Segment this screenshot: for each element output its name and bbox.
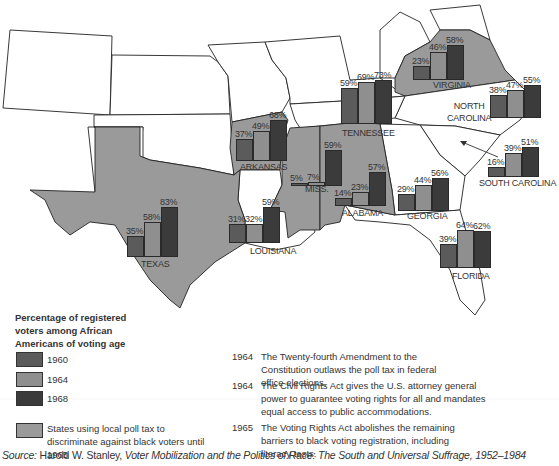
source-citation: Source: Harold W. Stanley, Voter Mobiliz… <box>2 449 526 461</box>
bar-1968: 57% <box>369 172 386 206</box>
state-label-mississippi: MISS. <box>305 184 329 194</box>
bar-1968: 62% <box>474 231 491 268</box>
bar-1968: 83% <box>161 207 178 257</box>
legend-item-1968: 1968 <box>16 391 68 406</box>
bar-1960: 16% <box>488 167 505 177</box>
bar-1968: 73% <box>375 80 392 124</box>
legend-swatch-1968 <box>16 391 43 406</box>
bars-florida: 39% 64% 62% <box>440 230 491 268</box>
bar-1964: 49% <box>253 131 270 161</box>
bar-1964: 46% <box>430 52 447 80</box>
bar-1964: 47% <box>507 90 524 118</box>
bars-louisiana: 31% 32% 59% <box>229 207 280 243</box>
state-label-north-carolina: NORTHCAROLINA <box>447 100 491 124</box>
state-label-south-carolina: SOUTH CAROLINA <box>479 178 556 188</box>
bar-1960: 39% <box>440 244 457 268</box>
bar-1960: 38% <box>490 95 507 118</box>
legend-swatch-1964 <box>16 372 43 387</box>
bar-1960: 14% <box>335 198 352 206</box>
state-colorado <box>3 30 112 115</box>
bar-1964: 64% <box>457 230 474 268</box>
legend-title: Percentage of registered voters among Af… <box>15 311 135 350</box>
legend-item-1964: 1964 <box>16 372 68 387</box>
bars-texas: 35% 58% 83% <box>127 207 178 257</box>
bars-virginia: 23% 46% 58% <box>413 27 464 80</box>
bars-arkansas: 37% 49% 68% <box>236 120 287 161</box>
bar-1964: 58% <box>144 222 161 257</box>
bar-1960: 23% <box>413 66 430 80</box>
bar-1964: 69% <box>358 82 375 124</box>
bars-alabama: 14% 23% 57% <box>335 172 386 206</box>
bar-1964: 39% <box>505 153 522 177</box>
state-label-florida: FLORIDA <box>452 271 490 281</box>
bar-1968: 51% <box>522 147 539 177</box>
timeline-entry: 1964 The Civil Rights Act gives the U.S.… <box>232 379 542 418</box>
state-label-tennessee: TENNESSEE <box>342 128 395 138</box>
state-label-arkansas: ARKANSAS <box>240 162 287 172</box>
bars-georgia: 29% 44% 56% <box>398 177 449 211</box>
bar-1960: 37% <box>236 139 253 161</box>
bar-1960: 59% <box>341 88 358 124</box>
state-label-georgia: GEORGIA <box>407 211 448 221</box>
legend-swatch-poll-tax <box>16 423 43 438</box>
state-label-alabama: ALABAMA <box>342 208 383 218</box>
bars-north-carolina: 38% 47% 55% <box>490 85 541 118</box>
bar-1964: 23% <box>352 192 369 206</box>
bar-1968: 56% <box>432 178 449 211</box>
bar-1964: 32% <box>246 224 263 243</box>
bar-1964: 44% <box>415 185 432 211</box>
state-label-louisiana: LOUISIANA <box>250 246 296 256</box>
legend-swatch-1960 <box>16 352 43 367</box>
bar-1968: 68% <box>270 120 287 161</box>
state-kansas <box>110 55 230 115</box>
bars-south-carolina: 16% 39% 51% <box>488 146 539 177</box>
bar-1960: 35% <box>127 236 144 257</box>
bar-1968: 58% <box>447 45 464 80</box>
bars-tennessee: 59% 69% 73% <box>341 80 392 124</box>
legend-item-1960: 1960 <box>16 352 68 367</box>
state-label-virginia: VIRGINIA <box>433 80 471 90</box>
bar-1960: 29% <box>398 194 415 211</box>
bar-1960: 31% <box>229 224 246 243</box>
bar-1968: 59% <box>263 207 280 243</box>
bar-1968: 55% <box>524 85 541 118</box>
state-label-texas: TEXAS <box>141 259 170 269</box>
